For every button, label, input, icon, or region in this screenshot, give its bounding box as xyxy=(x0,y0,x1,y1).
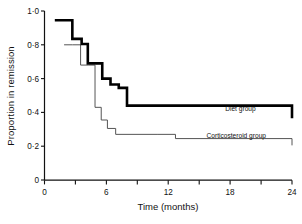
y-tick-label-0-2: 0·2 xyxy=(27,142,39,151)
y-axis-label: Proportion in remission xyxy=(5,46,16,145)
x-tick-label-18: 18 xyxy=(226,188,236,197)
y-tick-label-1-0: 1·0 xyxy=(27,7,39,16)
x-tick-label-24: 24 xyxy=(287,188,297,197)
diet-group-label: Diet group xyxy=(225,105,256,113)
x-tick-label-12: 12 xyxy=(164,188,174,197)
y-tick-label-0-8: 0·8 xyxy=(27,41,39,50)
diet-group-curve xyxy=(55,20,292,118)
y-tick-label-0-6: 0·6 xyxy=(27,75,39,84)
survival-curve-figure: Proportion in remission 1·0 0·8 0·6 0·4 … xyxy=(0,0,302,224)
y-tick-label-0: 0 xyxy=(34,176,39,185)
corticosteroid-group-label: Corticosteroid group xyxy=(207,132,267,140)
y-tick-label-0-4: 0·4 xyxy=(27,108,39,117)
x-axis-label: Time (months) xyxy=(138,201,199,212)
kaplan-meier-chart: Proportion in remission 1·0 0·8 0·6 0·4 … xyxy=(0,0,302,224)
corticosteroid-group-curve xyxy=(64,45,292,146)
x-tick-label-6: 6 xyxy=(104,188,109,197)
x-tick-label-0: 0 xyxy=(42,188,47,197)
